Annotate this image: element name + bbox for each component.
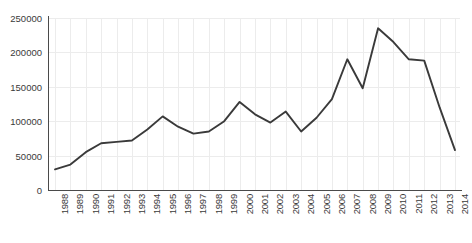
gridline-vertical — [424, 18, 425, 190]
x-axis-tick-label: 2010 — [397, 194, 408, 214]
y-axis-tick-label: 50000 — [16, 150, 42, 161]
gridline-horizontal — [48, 18, 460, 19]
y-axis-tick-label: 0 — [37, 185, 42, 196]
x-axis-tick-label: 2012 — [428, 194, 439, 214]
y-axis-tick-label: 250000 — [10, 13, 42, 24]
gridline-vertical — [178, 18, 179, 190]
gridline-horizontal — [48, 52, 460, 53]
y-axis-tick-label: 200000 — [10, 47, 42, 58]
gridline-vertical — [224, 18, 225, 190]
gridline-vertical — [347, 18, 348, 190]
x-axis-tick-label: 2008 — [367, 194, 378, 214]
gridline-vertical — [317, 18, 318, 190]
gridline-vertical — [409, 18, 410, 190]
gridline-horizontal — [48, 156, 460, 157]
plot-area — [48, 18, 460, 190]
x-axis-tick-label: 2014 — [459, 194, 470, 214]
y-axis-tick-label: 150000 — [10, 81, 42, 92]
x-axis-tick-label: 2006 — [336, 194, 347, 214]
x-axis-tick-label: 2011 — [413, 194, 424, 214]
x-axis-tick-label: 2002 — [274, 194, 285, 214]
gridline-vertical — [70, 18, 71, 190]
gridline-vertical — [455, 18, 456, 190]
line-chart: 250000200000150000100000500000 198819891… — [0, 0, 472, 243]
gridline-vertical — [86, 18, 87, 190]
x-axis-tick-label: 2003 — [290, 194, 301, 214]
x-axis-tick-label: 1994 — [151, 194, 162, 214]
gridline-vertical — [301, 18, 302, 190]
x-axis-tick-label: 2005 — [321, 194, 332, 214]
y-axis-line — [48, 16, 49, 191]
gridline-vertical — [440, 18, 441, 190]
y-axis-tick-labels: 250000200000150000100000500000 — [0, 0, 46, 243]
x-axis-tick-label: 1998 — [213, 194, 224, 214]
gridline-vertical — [101, 18, 102, 190]
x-axis-tick-label: 1996 — [182, 194, 193, 214]
x-axis-tick-label: 2007 — [351, 194, 362, 214]
x-axis-tick-label: 1995 — [167, 194, 178, 214]
gridline-horizontal — [48, 87, 460, 88]
gridline-vertical — [117, 18, 118, 190]
gridline-vertical — [332, 18, 333, 190]
gridline-vertical — [240, 18, 241, 190]
x-axis-tick-label: 1992 — [121, 194, 132, 214]
gridline-vertical — [163, 18, 164, 190]
x-axis-tick-label: 2004 — [305, 194, 316, 214]
gridline-vertical — [209, 18, 210, 190]
x-axis-tick-label: 1990 — [90, 194, 101, 214]
x-axis-tick-label: 1999 — [228, 194, 239, 214]
x-axis-tick-label: 1988 — [59, 194, 70, 214]
x-axis-tick-label: 2009 — [382, 194, 393, 214]
x-axis-tick-label: 1989 — [74, 194, 85, 214]
gridline-vertical — [193, 18, 194, 190]
gridline-vertical — [393, 18, 394, 190]
gridline-vertical — [147, 18, 148, 190]
x-axis-tick-label: 2000 — [244, 194, 255, 214]
gridline-vertical — [270, 18, 271, 190]
gridline-vertical — [55, 18, 56, 190]
x-axis-tick-label: 1993 — [136, 194, 147, 214]
gridline-vertical — [132, 18, 133, 190]
x-axis-tick-label: 1997 — [197, 194, 208, 214]
gridline-vertical — [286, 18, 287, 190]
gridline-horizontal — [48, 121, 460, 122]
gridline-vertical — [378, 18, 379, 190]
x-axis-tick-label: 1991 — [105, 194, 116, 214]
gridline-vertical — [255, 18, 256, 190]
x-axis-tick-label: 2013 — [444, 194, 455, 214]
x-axis-tick-label: 2001 — [259, 194, 270, 214]
gridline-vertical — [363, 18, 364, 190]
x-axis-line — [48, 190, 462, 191]
y-axis-tick-label: 100000 — [10, 116, 42, 127]
